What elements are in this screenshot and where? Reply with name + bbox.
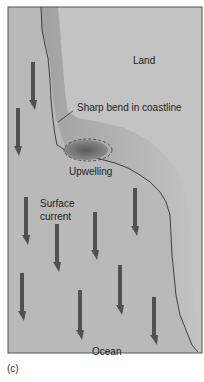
sharp-bend-label: Sharp bend in coastline [77,102,182,114]
diagram-canvas [0,0,204,382]
surface-current-label-line2: current [40,211,71,223]
upwelling-zone [64,140,108,160]
panel-label: (c) [7,363,19,374]
coastal-upwelling-diagram: Land Sharp bend in coastline Upwelling S… [0,0,204,382]
surface-current-label-line1: Surface [40,198,74,210]
land-label: Land [133,55,155,67]
ocean-label: Ocean [92,346,121,358]
upwelling-label: Upwelling [69,166,112,178]
